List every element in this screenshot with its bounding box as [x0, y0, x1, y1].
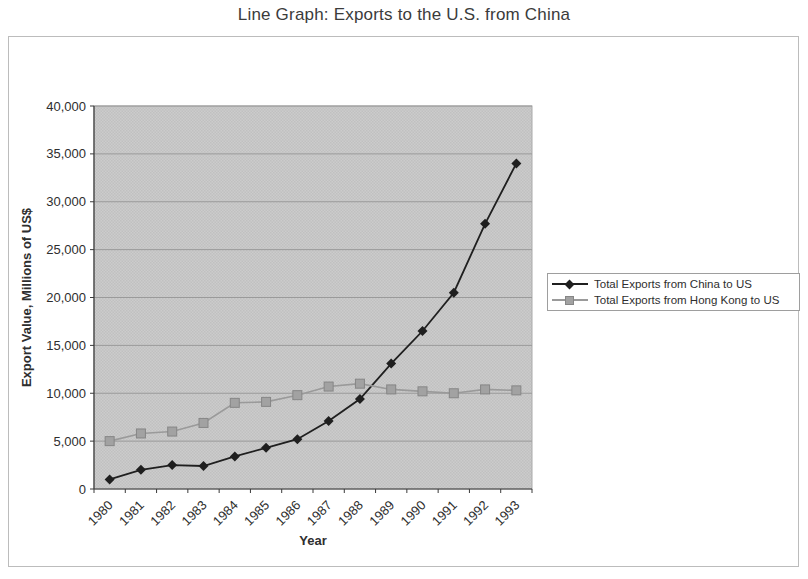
- legend-item-hongkong: Total Exports from Hong Kong to US: [552, 292, 795, 308]
- legend: Total Exports from China to US Total Exp…: [547, 273, 800, 311]
- page: Line Graph: Exports to the U.S. from Chi…: [0, 0, 808, 579]
- hongkong-series-sample: [552, 294, 588, 306]
- y-tick-label: 10,000: [46, 386, 86, 401]
- x-tick-label: 1980: [85, 498, 116, 529]
- x-tick-label: 1985: [241, 498, 272, 529]
- x-tick-label: 1990: [398, 498, 429, 529]
- x-tick-label: 1986: [272, 498, 303, 529]
- y-tick-label: 5,000: [53, 434, 86, 449]
- legend-label-china: Total Exports from China to US: [594, 278, 752, 290]
- data-point-square: [262, 397, 271, 406]
- china-series-sample: [552, 278, 588, 290]
- data-point-square: [105, 437, 114, 446]
- data-point-square: [136, 429, 145, 438]
- legend-item-china: Total Exports from China to US: [552, 276, 795, 292]
- square-marker-icon: [565, 296, 574, 305]
- data-point-square: [293, 391, 302, 400]
- data-point-square: [230, 398, 239, 407]
- x-tick-label: 1989: [366, 498, 397, 529]
- x-tick-label: 1987: [304, 498, 335, 529]
- x-tick-label: 1981: [116, 498, 147, 529]
- y-tick-label: 20,000: [46, 290, 86, 305]
- x-tick-label: 1983: [179, 498, 210, 529]
- data-point-square: [387, 385, 396, 394]
- data-point-square: [355, 379, 364, 388]
- x-tick-label: 1984: [210, 498, 241, 529]
- legend-label-hongkong: Total Exports from Hong Kong to US: [594, 294, 779, 306]
- x-tick-label: 1991: [429, 498, 460, 529]
- figure-frame: 05,00010,00015,00020,00025,00030,00035,0…: [8, 36, 799, 567]
- data-point-square: [199, 418, 208, 427]
- y-tick-label: 15,000: [46, 338, 86, 353]
- x-tick-label: 1982: [147, 498, 178, 529]
- y-tick-label: 35,000: [46, 146, 86, 161]
- y-axis-title: Export Value, Millions of US$: [19, 207, 34, 387]
- x-tick-label: 1993: [491, 498, 522, 529]
- data-point-square: [324, 382, 333, 391]
- data-point-square: [481, 385, 490, 394]
- y-tick-label: 40,000: [46, 99, 86, 114]
- y-tick-label: 25,000: [46, 242, 86, 257]
- diamond-marker-icon: [565, 279, 575, 289]
- data-point-square: [512, 386, 521, 395]
- x-axis-title: Year: [299, 533, 326, 548]
- x-tick-label: 1992: [460, 498, 491, 529]
- data-point-square: [418, 387, 427, 396]
- chart-title: Line Graph: Exports to the U.S. from Chi…: [0, 5, 808, 25]
- data-point-square: [168, 427, 177, 436]
- y-tick-label: 0: [79, 482, 86, 497]
- x-tick-label: 1988: [335, 498, 366, 529]
- data-point-square: [449, 389, 458, 398]
- y-tick-label: 30,000: [46, 194, 86, 209]
